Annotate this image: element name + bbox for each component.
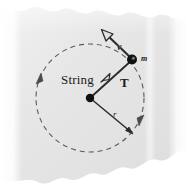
tension-label: T [120,76,129,89]
string-label: String [61,73,94,86]
diagram-canvas [0,0,188,187]
top-highlight [0,0,188,34]
ball-highlight [132,57,135,60]
velocity-label: v [117,42,121,52]
radius-label: r [113,110,117,119]
ball-mass-dot [127,55,137,65]
physics-diagram-figure: String T v m r [0,0,188,187]
center-pivot-dot [86,94,94,102]
mass-label: m [141,55,147,63]
